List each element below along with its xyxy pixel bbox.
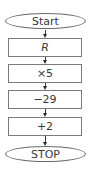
arrow-down-icon — [44, 136, 47, 146]
stop-terminal: STOP — [5, 146, 86, 162]
step-input-r: R — [8, 38, 82, 57]
step-label: +2 — [37, 121, 53, 132]
step-add-2: +2 — [8, 117, 82, 136]
start-label: Start — [32, 16, 59, 27]
arrow-down-icon — [44, 109, 47, 117]
arrow-down-icon — [44, 30, 47, 38]
step-label: R — [41, 42, 49, 53]
step-label: −29 — [33, 94, 56, 105]
step-subtract-29: −29 — [8, 90, 82, 109]
start-terminal: Start — [5, 13, 86, 29]
stop-label: STOP — [31, 149, 60, 160]
arrow-down-icon — [44, 83, 47, 90]
step-label: ×5 — [37, 68, 53, 79]
arrow-down-icon — [44, 57, 47, 64]
step-multiply-5: ×5 — [8, 64, 82, 83]
